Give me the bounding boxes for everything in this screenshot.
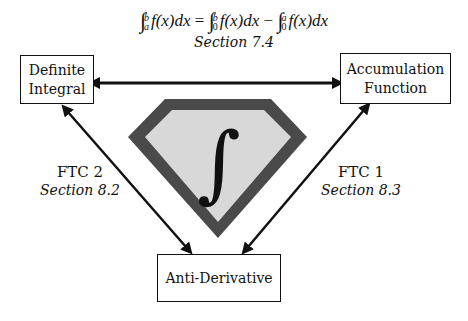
integral-sign: ∫ — [277, 8, 283, 33]
formula-section: Section 7.4 — [0, 33, 468, 51]
integrand: f(x)dx — [220, 11, 260, 30]
integrand: f(x)dx — [151, 11, 191, 30]
edge-label-ftc1: FTC 1 Section 8.3 — [306, 163, 416, 199]
ftc1-section: Section 8.3 — [306, 181, 416, 199]
node-accumulation-function: Accumulation Function — [340, 53, 451, 104]
node-label: Anti-Derivative — [165, 269, 272, 288]
integrand: f(x)dx — [288, 11, 328, 30]
node-label: Definite — [29, 61, 85, 80]
ftc2-section: Section 8.2 — [25, 181, 135, 199]
integral-icon: ∫ — [197, 114, 241, 212]
edge-label-ftc2: FTC 2 Section 8.2 — [25, 163, 135, 199]
integral-sign: ∫ — [140, 8, 146, 33]
equals-sign: = — [195, 11, 205, 30]
ftc1-title: FTC 1 — [306, 163, 416, 181]
node-label: Function — [364, 79, 427, 98]
minus-sign: − — [264, 11, 274, 30]
ftc2-title: FTC 2 — [25, 163, 135, 181]
node-definite-integral: Definite Integral — [20, 55, 94, 104]
integral-sign: ∫ — [209, 8, 215, 33]
node-label: Accumulation — [347, 60, 444, 79]
node-label: Integral — [29, 80, 86, 99]
node-anti-derivative: Anti-Derivative — [157, 254, 281, 302]
formula: ∫baf(x)dx = ∫b0f(x)dx − ∫a0f(x)dx — [0, 6, 468, 32]
